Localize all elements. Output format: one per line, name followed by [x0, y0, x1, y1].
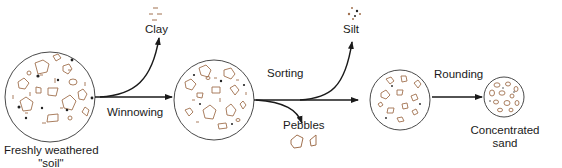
pebbles-icon [291, 135, 316, 148]
concentrated-sand-label-line2: sand [470, 137, 540, 150]
fresh-soil-circle [5, 52, 95, 142]
fresh-soil-label-line2: "soil" [4, 157, 98, 168]
winnowed-circle [174, 60, 254, 140]
fresh-soil-label-line1: Freshly weathered [4, 144, 98, 157]
clay-branch-arrow [100, 38, 159, 97]
sorted-circle [370, 70, 430, 130]
clay-particles-icon [149, 8, 162, 20]
clay-label: Clay [145, 23, 168, 36]
winnowing-label: Winnowing [107, 106, 163, 119]
sorting-label: Sorting [267, 67, 303, 80]
concentrated-sand-circle [484, 77, 524, 117]
concentrated-sand-label: Concentrated sand [470, 124, 540, 150]
fresh-soil-label: Freshly weathered "soil" [4, 144, 98, 168]
pebbles-label: Pebbles [283, 119, 325, 132]
concentrated-sand-label-line1: Concentrated [470, 124, 540, 137]
silt-label: Silt [343, 23, 359, 36]
silt-particles-icon [348, 7, 361, 20]
rounding-label: Rounding [434, 68, 483, 81]
silt-branch-arrow [300, 42, 352, 100]
